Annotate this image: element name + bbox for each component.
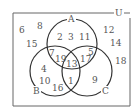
element: 15: [26, 39, 38, 49]
element: 19: [55, 54, 67, 64]
element: 3: [68, 32, 74, 42]
element: 12: [103, 25, 114, 35]
element: 8: [37, 21, 43, 31]
element: 11: [79, 32, 90, 42]
element: 6: [19, 25, 25, 35]
set-c-label: C: [102, 86, 109, 96]
element: 4: [41, 64, 47, 74]
element: 1: [68, 76, 74, 86]
element: 17: [80, 54, 92, 64]
element: 18: [115, 56, 127, 66]
venn-diagram: U A B C 6 8 15 12 14 18 2 3 11 7 19 5 17…: [0, 0, 137, 111]
set-a-label: A: [67, 14, 75, 24]
universe-label: U: [115, 8, 123, 18]
element: 2: [57, 32, 63, 42]
element: 10: [39, 76, 51, 86]
set-b-label: B: [33, 86, 40, 96]
element: 13: [66, 59, 78, 69]
element: 9: [92, 75, 98, 85]
element: 14: [110, 38, 122, 48]
element: 16: [52, 83, 64, 93]
